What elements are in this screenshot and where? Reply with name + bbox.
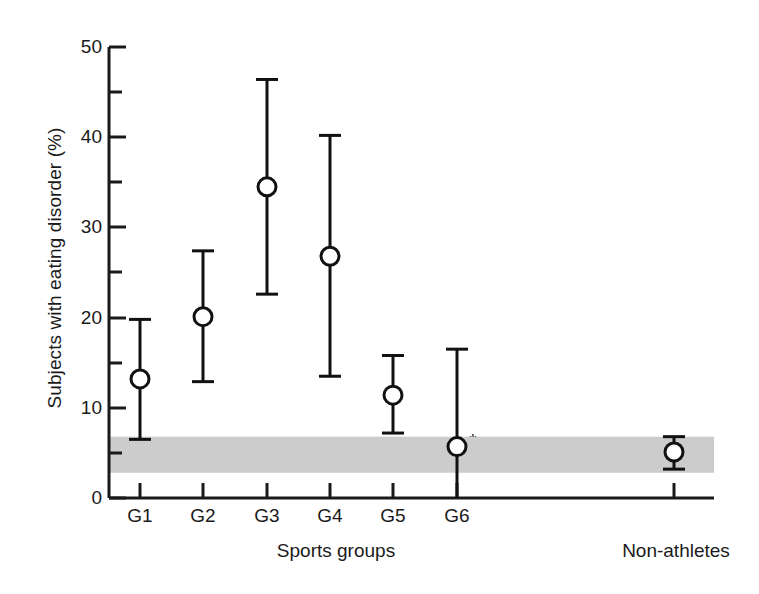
data-point-g5 — [382, 355, 404, 433]
plot-canvas — [0, 0, 759, 594]
data-point-g4 — [319, 135, 341, 376]
x-axis-ticks — [140, 483, 674, 498]
marker-open-circle — [665, 443, 683, 461]
marker-open-circle — [448, 438, 466, 456]
data-point-g6 — [446, 349, 468, 498]
marker-open-circle — [194, 308, 212, 326]
y-axis-minor-ticks — [109, 92, 122, 453]
marker-open-circle — [258, 178, 276, 196]
chart-figure: Subjects with eating disorder (%) 0 10 2… — [0, 0, 759, 594]
marker-open-circle — [321, 247, 339, 265]
reference-band — [109, 437, 714, 473]
data-point-g1 — [129, 319, 151, 439]
data-series-layer — [129, 79, 685, 498]
data-point-g2 — [192, 251, 214, 382]
marker-open-circle — [131, 370, 149, 388]
marker-open-circle — [384, 386, 402, 404]
data-point-g3 — [256, 79, 278, 294]
